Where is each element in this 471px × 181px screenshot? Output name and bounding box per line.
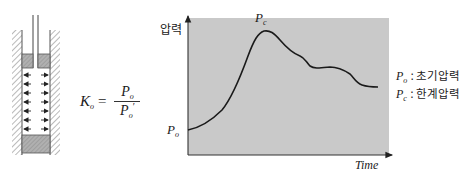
formula-lhs: Ko [80,93,94,110]
peak-label: Pc [255,10,267,26]
top-piston-right [38,54,50,68]
start-label: Po [167,122,179,138]
bottom-piston [22,135,50,153]
formula-fraction: Po Po′ [114,84,140,119]
chart-plot-area [188,18,389,155]
fraction-bar [114,101,140,102]
left-wall-hatch [12,30,22,155]
y-axis-label: 압력 [160,20,182,37]
ko-formula: Ko = Po Po′ [80,84,140,119]
top-piston-left [22,54,33,68]
pressure-arrows [24,75,48,129]
legend-item-initial-pressure: Po :초기압력 [396,68,460,86]
x-axis-label: Time [355,158,378,173]
formula-equals: = [98,93,106,110]
formula-numerator: Po [121,84,134,100]
right-wall-hatch [50,30,60,155]
formula-denominator: Po′ [120,103,135,119]
legend: Po :초기압력 Pc :한계압력 [396,68,460,104]
